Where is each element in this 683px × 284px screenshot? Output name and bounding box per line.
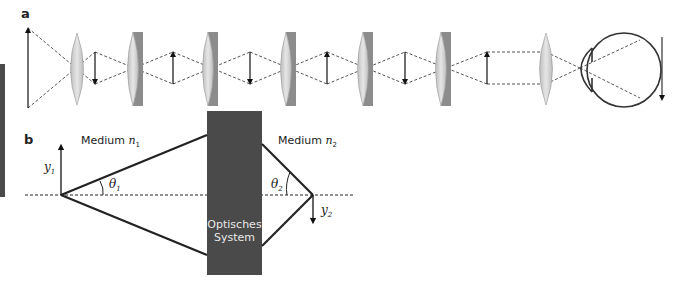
eye-icon — [581, 33, 661, 107]
angle-arc-right — [286, 172, 290, 195]
plano-convex-lens — [358, 32, 374, 106]
medium-n2-label: Medium n2 — [278, 134, 337, 147]
theta2-label: θ2 — [271, 177, 283, 191]
biconvex-lens — [71, 33, 84, 105]
biconvex-lens — [540, 33, 553, 105]
angle-arc-left — [100, 181, 103, 195]
optical-system-box — [207, 111, 262, 275]
y1-label: y1 — [44, 160, 55, 174]
optical-system-label: Optisches System — [203, 218, 266, 244]
panel-b-label: b — [24, 132, 33, 147]
plano-convex-lens — [281, 32, 297, 106]
plano-convex-lens — [203, 32, 219, 106]
medium-n1-label: Medium n1 — [81, 134, 140, 147]
theta1-label: θ1 — [109, 177, 121, 191]
y2-label: y2 — [321, 203, 332, 217]
panel-a-label: a — [21, 6, 30, 21]
plano-convex-lens — [128, 32, 144, 106]
plano-convex-lens — [436, 32, 452, 106]
